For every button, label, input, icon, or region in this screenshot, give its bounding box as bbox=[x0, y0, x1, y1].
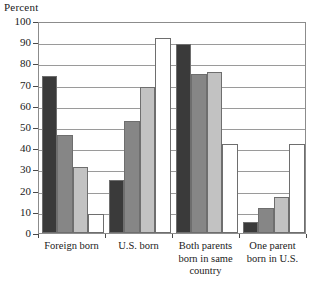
x-axis-tick-mark bbox=[105, 234, 106, 238]
bar bbox=[207, 72, 223, 233]
y-axis-tick-label: 30 bbox=[20, 164, 31, 175]
y-axis-title: Percent bbox=[4, 1, 38, 14]
gridline bbox=[39, 65, 305, 66]
bar bbox=[258, 208, 274, 233]
gridline bbox=[39, 87, 305, 88]
plot-area bbox=[38, 22, 306, 234]
bar bbox=[124, 121, 140, 233]
bar bbox=[243, 222, 259, 233]
x-axis-group-label: Foreign born bbox=[38, 240, 105, 253]
gridline bbox=[39, 44, 305, 45]
bar bbox=[222, 144, 238, 233]
bar bbox=[109, 180, 125, 233]
bar bbox=[57, 135, 73, 233]
y-axis-tick-label: 70 bbox=[20, 80, 31, 91]
x-axis-group-label: One parent born in U.S. bbox=[239, 240, 306, 265]
x-axis-group-label: U.S. born bbox=[105, 240, 172, 253]
bar bbox=[289, 144, 305, 233]
x-axis-tick-mark bbox=[172, 234, 173, 238]
bar bbox=[88, 214, 104, 233]
y-axis-tick-label: 50 bbox=[20, 122, 31, 133]
gridline bbox=[39, 150, 305, 151]
y-axis-tick-label: 10 bbox=[20, 207, 31, 218]
gridline bbox=[39, 108, 305, 109]
x-axis-tick-mark bbox=[306, 234, 307, 238]
bar bbox=[140, 87, 156, 233]
x-axis-group-label: Both parents born in same country bbox=[172, 240, 239, 278]
y-axis-tick-label: 60 bbox=[20, 101, 31, 112]
y-axis-tick-label: 20 bbox=[20, 186, 31, 197]
bar bbox=[155, 38, 171, 233]
y-axis-tick-label: 100 bbox=[15, 16, 32, 27]
bar bbox=[191, 74, 207, 233]
y-axis-tick-label: 90 bbox=[20, 37, 31, 48]
bar bbox=[73, 167, 89, 233]
y-axis-tick-label: 0 bbox=[26, 228, 32, 239]
bar bbox=[274, 197, 290, 233]
y-axis-tick-label: 80 bbox=[20, 58, 31, 69]
y-axis-tick-label: 40 bbox=[20, 143, 31, 154]
bar bbox=[176, 44, 192, 233]
gridline bbox=[39, 129, 305, 130]
bar bbox=[42, 76, 58, 233]
x-axis-tick-mark bbox=[239, 234, 240, 238]
x-axis-tick-mark bbox=[38, 234, 39, 238]
bar-chart: Percent 1009080706050403020100 Foreign b… bbox=[0, 0, 312, 283]
